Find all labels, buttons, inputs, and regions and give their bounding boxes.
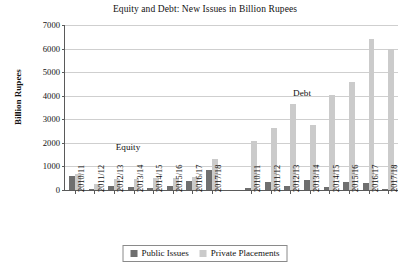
x-axis-tick-label: 2014/15 <box>332 165 341 192</box>
y-axis-label: Billion Rupees <box>13 57 23 137</box>
x-axis-tick-label: 2013/14 <box>136 165 145 192</box>
legend-item: Public Issues <box>131 248 189 258</box>
x-axis-tick-label: 2013/14 <box>312 165 321 192</box>
x-axis-tick-label: 2015/16 <box>351 165 360 192</box>
x-axis-tick-label: 2016/17 <box>195 165 204 192</box>
x-axis-tick-label: 2016/17 <box>371 165 380 192</box>
bars-layer <box>65 25 398 190</box>
legend-swatch-icon <box>131 250 138 257</box>
x-axis-tick-label: 2017/18 <box>214 165 223 192</box>
x-axis-tick-label: 2014/15 <box>155 165 164 192</box>
y-axis-tick-mark <box>62 190 66 191</box>
y-axis-tick-label: 0 <box>56 185 60 195</box>
x-axis-tick-label: 2010/11 <box>253 165 262 192</box>
y-axis-tick-label: 2000 <box>43 138 60 148</box>
legend-item: Private Placements <box>200 248 280 258</box>
y-axis-tick-label: 5000 <box>43 67 60 77</box>
y-axis-tick-label: 1000 <box>43 161 60 171</box>
x-axis-tick-label: 2015/16 <box>175 165 184 192</box>
x-axis-tick-label: 2017/18 <box>390 165 399 192</box>
chart-legend: Public IssuesPrivate Placements <box>123 245 288 262</box>
x-axis-tick-label: 2011/12 <box>97 165 106 192</box>
chart-container: Equity and Debt: New Issues in Billion R… <box>0 0 410 270</box>
y-axis-tick-label: 3000 <box>43 114 60 124</box>
plot-area: 01000200030004000500060007000 <box>64 25 398 191</box>
x-axis-tick-label: 2012/13 <box>116 165 125 192</box>
chart-title: Equity and Debt: New Issues in Billion R… <box>0 4 410 14</box>
x-axis-tick-label: 2012/13 <box>292 165 301 192</box>
group-annotation-equity: Equity <box>116 142 141 152</box>
legend-swatch-icon <box>200 250 207 257</box>
legend-label: Private Placements <box>211 248 280 258</box>
group-annotation-debt: Debt <box>293 88 311 98</box>
legend-label: Public Issues <box>142 248 189 258</box>
y-axis-tick-label: 6000 <box>43 44 60 54</box>
x-axis-tick-label: 2010/11 <box>77 165 86 192</box>
x-axis-labels: 2010/112011/122012/132013/142014/152015/… <box>64 192 397 242</box>
x-axis-tick-label: 2011/12 <box>273 165 282 192</box>
y-axis-tick-label: 7000 <box>43 20 60 30</box>
y-axis-tick-label: 4000 <box>43 91 60 101</box>
